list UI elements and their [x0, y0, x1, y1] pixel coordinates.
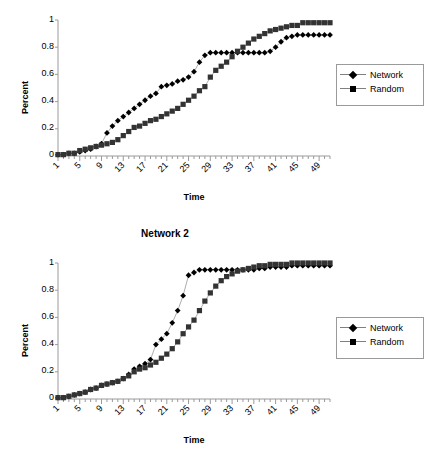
svg-text:41: 41	[265, 403, 279, 417]
chart-2-legend-label-network: Network	[366, 323, 403, 333]
svg-text:45: 45	[286, 403, 300, 417]
svg-text:37: 37	[243, 403, 257, 417]
svg-text:33: 33	[221, 403, 235, 417]
chart-2-legend-row-network[interactable]: Network	[340, 321, 418, 335]
chart-1-legend-label-network: Network	[366, 70, 403, 80]
diamond-marker-icon	[340, 322, 366, 334]
svg-text:13: 13	[112, 403, 126, 417]
figure-caption	[12, 455, 422, 465]
svg-text:29: 29	[199, 403, 213, 417]
svg-text:13: 13	[112, 160, 126, 174]
chart-panel-1: Percent 1 0.8 0.6 0.4 0.2 0 159131721252…	[0, 0, 434, 225]
svg-text:29: 29	[199, 160, 213, 174]
svg-text:5: 5	[72, 403, 83, 414]
chart-2-x-axis-label: Time	[58, 435, 330, 445]
chart-2-legend-row-random[interactable]: Random	[340, 335, 418, 349]
svg-text:17: 17	[134, 403, 148, 417]
chart-panel-2: Network 2 Percent 1 0.8 0.6 0.4 0.2 0 15…	[0, 225, 434, 450]
svg-text:5: 5	[72, 160, 83, 171]
svg-text:25: 25	[178, 403, 192, 417]
square-marker-icon	[340, 336, 366, 348]
chart-2-legend: Network Random	[336, 317, 424, 359]
square-marker-icon	[340, 83, 366, 95]
svg-text:45: 45	[286, 160, 300, 174]
svg-text:21: 21	[156, 160, 170, 174]
svg-text:17: 17	[134, 160, 148, 174]
chart-1-x-axis-label: Time	[58, 192, 330, 202]
svg-text:21: 21	[156, 403, 170, 417]
svg-text:49: 49	[308, 160, 322, 174]
svg-text:1: 1	[50, 160, 61, 171]
svg-text:33: 33	[221, 160, 235, 174]
svg-text:41: 41	[265, 160, 279, 174]
figure-two-charts: Percent 1 0.8 0.6 0.4 0.2 0 159131721252…	[0, 0, 434, 465]
svg-text:9: 9	[94, 403, 105, 414]
svg-text:25: 25	[178, 160, 192, 174]
svg-text:49: 49	[308, 403, 322, 417]
svg-text:1: 1	[50, 403, 61, 414]
svg-text:9: 9	[94, 160, 105, 171]
chart-2-legend-label-random: Random	[366, 337, 404, 347]
diamond-marker-icon	[340, 69, 366, 81]
chart-1-legend: Network Random	[336, 64, 424, 106]
svg-text:37: 37	[243, 160, 257, 174]
chart-1-legend-row-network[interactable]: Network	[340, 68, 418, 82]
chart-1-legend-label-random: Random	[366, 84, 404, 94]
chart-1-legend-row-random[interactable]: Random	[340, 82, 418, 96]
